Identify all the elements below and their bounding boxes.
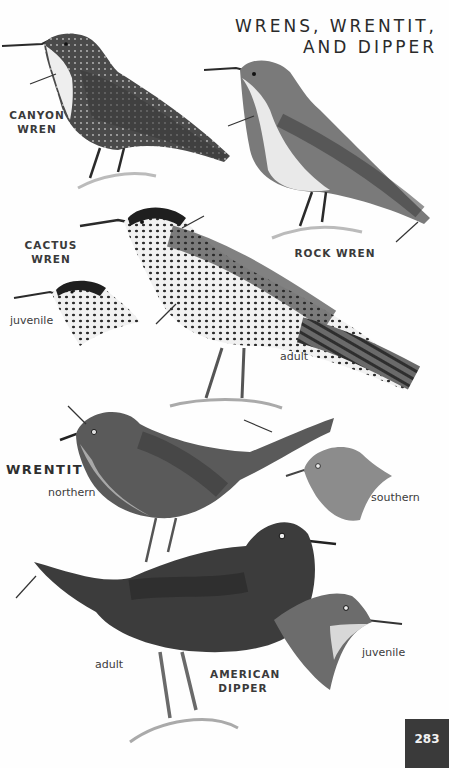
species-name-line: DIPPER [210, 681, 276, 695]
wrentit-southern-illustration [286, 447, 392, 521]
species-name-line: CANYON [8, 108, 66, 122]
species-name-line: WREN [22, 252, 80, 266]
note-dipper-juvenile: juvenile [362, 646, 405, 659]
page-title-line-1: WRENS, WRENTIT, [235, 16, 437, 37]
note-dipper-adult: adult [95, 658, 123, 671]
species-label-rock-wren: ROCK WREN [280, 246, 390, 260]
pointer-line [396, 222, 418, 242]
species-label-wrentit: WRENTIT [6, 462, 83, 477]
species-name-line: CACTUS [22, 238, 80, 252]
species-label-canyon-wren: CANYON WREN [8, 108, 66, 136]
species-name-line: AMERICAN [210, 667, 276, 681]
page-title-line-2: AND DIPPER [235, 37, 437, 58]
pointer-line [30, 74, 56, 84]
pointer-line [244, 420, 272, 432]
note-wrentit-northern: northern [48, 486, 96, 499]
page-number-tab: 283 [405, 719, 449, 768]
species-name-line: ROCK WREN [280, 246, 390, 260]
species-label-cactus-wren: CACTUS WREN [22, 238, 80, 266]
pointer-line [16, 576, 36, 598]
pointer-line [68, 406, 86, 424]
american-dipper-juvenile-illustration [274, 593, 402, 690]
rock-wren-illustration [204, 60, 430, 238]
species-name-line: WREN [8, 122, 66, 136]
cactus-wren-adult-illustration [80, 208, 414, 409]
note-cactus-juvenile: juvenile [10, 314, 53, 327]
field-guide-page: WRENS, WRENTIT, AND DIPPER CANYON WREN R… [0, 0, 449, 768]
species-label-american-dipper: AMERICAN DIPPER [210, 667, 276, 695]
note-wrentit-southern: southern [371, 491, 420, 504]
page-title: WRENS, WRENTIT, AND DIPPER [235, 16, 437, 58]
note-cactus-adult: adult [280, 350, 308, 363]
